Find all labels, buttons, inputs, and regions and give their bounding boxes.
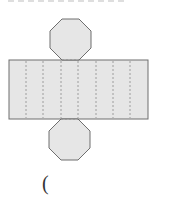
prism-net-diagram <box>0 0 192 197</box>
top-octagon-face <box>50 19 91 60</box>
bottom-octagon-face <box>49 119 90 160</box>
answer-blank-paren: ( <box>42 173 49 193</box>
lateral-faces-rectangle <box>9 60 148 119</box>
